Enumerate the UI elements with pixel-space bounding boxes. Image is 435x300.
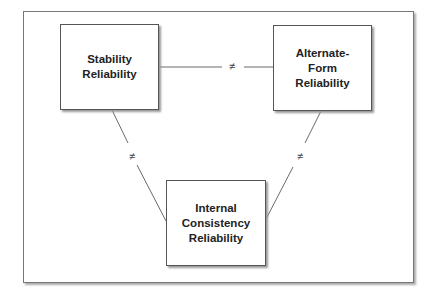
- node-stability-reliability: Stability Reliability: [60, 24, 159, 110]
- not-equal-symbol-right: ≠: [297, 150, 303, 162]
- node-alternate-form-reliability: Alternate- Form Reliability: [273, 25, 372, 111]
- node-internal-consistency-reliability: Internal Consistency Reliability: [166, 180, 266, 266]
- not-equal-symbol-left: ≠: [129, 150, 135, 162]
- not-equal-symbol-top: ≠: [229, 60, 235, 72]
